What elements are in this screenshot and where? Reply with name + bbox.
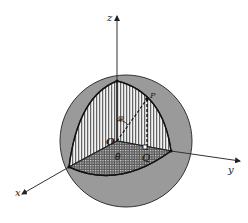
x-label: x — [15, 187, 21, 198]
point-p — [145, 97, 149, 101]
phi-label: φ — [118, 113, 124, 122]
origin-label: O — [106, 136, 115, 147]
z-top-point — [115, 79, 118, 82]
z-label: z — [106, 12, 113, 23]
spherical-coordinates-diagram: z x y O P Q φ θ — [0, 0, 248, 223]
theta-label: θ — [115, 152, 121, 162]
p-label: P — [149, 91, 156, 100]
y-label: y — [227, 164, 234, 175]
x-intercept-point — [67, 165, 70, 168]
q-label: Q — [142, 152, 150, 163]
x-axis — [22, 167, 69, 194]
right-angle-mark — [143, 145, 147, 149]
y-intercept-point — [169, 149, 172, 152]
